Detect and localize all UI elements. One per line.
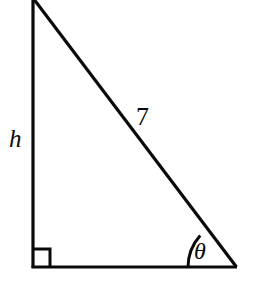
angle-theta-label: θ <box>194 239 206 263</box>
right-angle-marker-icon <box>33 249 50 266</box>
hypotenuse-label: 7 <box>136 104 149 130</box>
triangle-figure: h 7 θ <box>0 0 259 289</box>
triangle-svg <box>0 0 259 289</box>
vertical-leg-label: h <box>9 126 22 151</box>
hypotenuse-line <box>33 0 237 267</box>
